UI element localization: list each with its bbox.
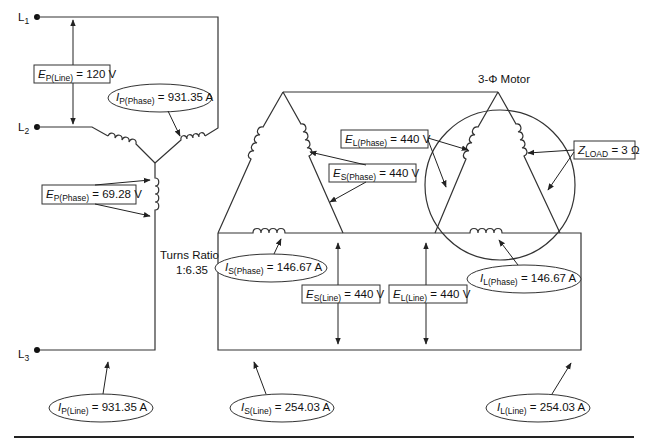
terminal-l3-label: L3 [18, 348, 29, 363]
primary-coil-a [108, 133, 155, 163]
l2-wire [37, 127, 108, 136]
motor-delta-winding [435, 92, 560, 233]
es-phase-arrow-2 [330, 182, 366, 202]
il-line-arrow [552, 363, 571, 394]
il-phase-arrow [499, 240, 518, 265]
turns-ratio-title: Turns Ratio [160, 249, 219, 261]
is-phase-arrow [274, 239, 281, 254]
el-phase-label: EL(Phase) = 440 V [341, 130, 431, 148]
ep-phase-label: EP(Phase) = 69.28 V [42, 185, 142, 204]
motor-title: 3-Φ Motor [478, 73, 530, 85]
terminal-l3-dot [34, 347, 40, 353]
el-line-label: EL(Line) = 440 V [389, 285, 471, 303]
il-phase-label: IL(Phase) = 146.67 A [467, 265, 581, 293]
ip-phase-label: IP(Phase) = 931.35 A [108, 84, 213, 112]
three-phase-transformer-diagram: L1 L2 L3 EP(Line) = 120 V IP(Phase) = 93… [0, 0, 647, 443]
es-line-label: ES(Line) = 440 V [302, 285, 385, 303]
z-load-arrow-2 [548, 152, 574, 190]
es-phase-label: ES(Phase) = 440 V [329, 164, 420, 182]
ep-line-label: EP(Line) = 120 V [34, 65, 117, 83]
il-line-label: IL(Line) = 254.03 A [486, 394, 590, 422]
ep-phase-arrow-bottom [95, 204, 150, 216]
primary-coil-b [155, 133, 205, 163]
terminal-l1-label: L1 [18, 11, 29, 26]
ip-line-label: IP(Line) = 931.35 A [49, 394, 153, 422]
terminal-l2-label: L2 [18, 121, 29, 136]
is-phase-label: IS(Phase) = 146.67 A [215, 254, 327, 282]
is-line-arrow [254, 362, 266, 394]
secondary-delta-winding [218, 92, 498, 233]
el-phase-arrow-2 [428, 140, 446, 187]
is-line-label: IS(Line) = 254.03 A [230, 394, 334, 422]
ip-line-arrow [103, 362, 108, 394]
turns-ratio-value: 1:6.35 [176, 264, 208, 276]
es-phase-arrow-1 [310, 152, 366, 165]
ip-phase-arrow [168, 111, 180, 136]
z-load-label: ZLOAD = 3 Ω [574, 141, 640, 159]
ep-phase-arrow-top [95, 180, 150, 185]
motor-circle [425, 110, 575, 260]
